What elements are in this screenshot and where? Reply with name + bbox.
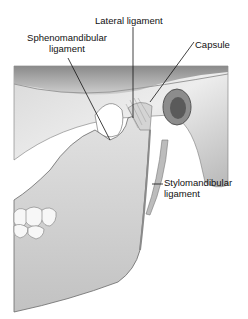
tmj-ligament-illustration: Lateral ligament Sphenomandibular ligame… <box>0 0 248 319</box>
label-sphenomandibular-line2: ligament <box>22 43 112 54</box>
label-stylomandibular-line2: ligament <box>164 188 232 199</box>
label-lateral-ligament: Lateral ligament <box>95 15 163 26</box>
label-sphenomandibular-line1: Sphenomandibular <box>22 32 112 43</box>
label-stylomandibular-ligament: Stylomandibular ligament <box>164 177 232 199</box>
label-capsule: Capsule <box>195 39 230 50</box>
label-sphenomandibular-ligament: Sphenomandibular ligament <box>22 32 112 54</box>
label-stylomandibular-line1: Stylomandibular <box>164 177 232 188</box>
